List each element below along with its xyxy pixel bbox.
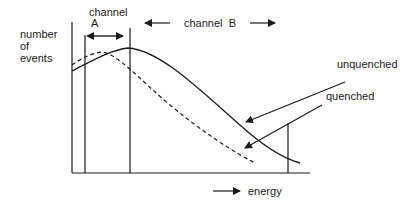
spectrum-diagram [0, 0, 417, 204]
y-axis-label-line1: number [20, 28, 57, 40]
unquenched-curve [72, 48, 300, 163]
unquenched-label: unquenched [337, 58, 398, 70]
unquenched-pointer-arrow [246, 82, 345, 122]
quenched-label: quenched [326, 90, 374, 102]
y-axis-label-line2: of [20, 40, 29, 52]
quenched-curve [72, 52, 255, 163]
x-axis-label: energy [248, 185, 282, 197]
channel-a-label-line2: A [91, 17, 98, 29]
y-axis-label-line3: events [20, 52, 52, 64]
channel-b-label: channel B [184, 17, 236, 29]
quenched-pointer-arrow [245, 105, 322, 148]
